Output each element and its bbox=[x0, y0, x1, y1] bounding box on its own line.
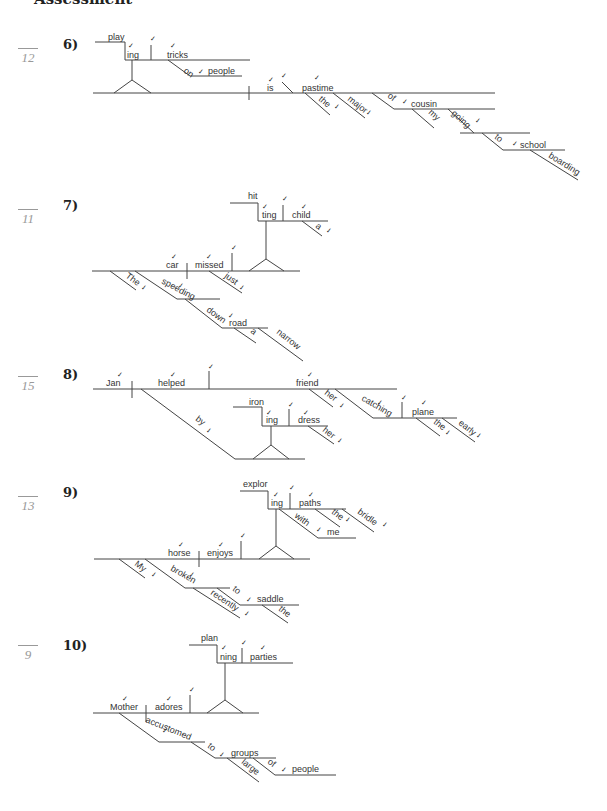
svg-text:✓: ✓ bbox=[171, 253, 177, 260]
svg-text:✓: ✓ bbox=[339, 402, 345, 409]
word-parties: parties bbox=[250, 652, 278, 662]
word-with: with bbox=[292, 510, 312, 528]
word-The: The bbox=[124, 271, 142, 288]
word-people: people bbox=[208, 66, 235, 76]
svg-text:✓: ✓ bbox=[178, 541, 184, 548]
diagram-7: hit ting child a car missed just The spe… bbox=[92, 191, 332, 361]
svg-text:✓: ✓ bbox=[401, 394, 407, 401]
word-school: school bbox=[520, 140, 546, 150]
svg-text:✓: ✓ bbox=[337, 437, 343, 444]
svg-text:✓: ✓ bbox=[476, 432, 482, 439]
svg-text:✓: ✓ bbox=[122, 695, 128, 702]
svg-text:✓: ✓ bbox=[128, 42, 134, 49]
svg-text:✓: ✓ bbox=[117, 371, 123, 378]
word-to: to bbox=[206, 741, 218, 754]
word-play: play bbox=[108, 32, 125, 42]
diagram-9: explor ing paths the bridle with me hors… bbox=[94, 479, 388, 623]
word-missed: missed bbox=[195, 260, 224, 270]
word-car: car bbox=[166, 260, 179, 270]
svg-text:✓: ✓ bbox=[281, 766, 287, 773]
word-large: large bbox=[240, 757, 262, 777]
word-to: to bbox=[493, 132, 505, 145]
word-her-2: her bbox=[321, 425, 337, 441]
word-saddle: saddle bbox=[257, 594, 284, 604]
word-My: My bbox=[133, 559, 149, 574]
word-adores: adores bbox=[155, 702, 183, 712]
word-is: is bbox=[267, 83, 274, 93]
word-plan: plan bbox=[201, 633, 218, 643]
word-ting: ting bbox=[262, 210, 277, 220]
word-enjoys: enjoys bbox=[207, 548, 234, 558]
svg-text:✓: ✓ bbox=[162, 727, 168, 734]
word-narrow: narrow bbox=[275, 327, 303, 352]
diagram-8: Jan helped friend her catching plane the… bbox=[93, 363, 482, 459]
svg-text:✓: ✓ bbox=[221, 644, 227, 651]
svg-text:✓: ✓ bbox=[178, 282, 184, 289]
svg-text:✓: ✓ bbox=[219, 751, 225, 758]
svg-text:✓: ✓ bbox=[189, 571, 195, 578]
check-icons: ✓ ✓ ✓ ✓ ✓ ✓ ✓ ✓ ✓ ✓ ✓ ✓ ✓ ✓ ✓ bbox=[117, 363, 482, 444]
word-pastime: pastime bbox=[302, 83, 334, 93]
svg-text:✓: ✓ bbox=[303, 409, 309, 416]
word-ing: ing bbox=[271, 498, 283, 508]
word-plane: plane bbox=[412, 407, 434, 417]
word-the: the bbox=[317, 94, 333, 110]
word-of: of bbox=[386, 91, 398, 104]
svg-text:✓: ✓ bbox=[241, 639, 247, 646]
svg-text:✓: ✓ bbox=[246, 596, 252, 603]
word-explor: explor bbox=[243, 479, 268, 489]
word-accustomed: accustomed bbox=[144, 715, 193, 742]
word-just: just bbox=[222, 270, 240, 287]
word-by: by bbox=[194, 414, 208, 428]
svg-text:✓: ✓ bbox=[262, 203, 268, 210]
svg-text:✓: ✓ bbox=[208, 363, 214, 370]
svg-text:✓: ✓ bbox=[239, 284, 245, 291]
svg-text:✓: ✓ bbox=[402, 98, 408, 105]
word-tricks: tricks bbox=[167, 50, 188, 60]
svg-text:✓: ✓ bbox=[377, 399, 383, 406]
sentence-diagrams: play ing tricks on people is pastime the… bbox=[0, 0, 607, 811]
svg-text:✓: ✓ bbox=[218, 541, 224, 548]
svg-text:✓: ✓ bbox=[273, 491, 279, 498]
word-road: road bbox=[229, 318, 247, 328]
word-hit: hit bbox=[248, 191, 258, 201]
word-horse: horse bbox=[168, 548, 191, 558]
word-ing: ing bbox=[266, 415, 278, 425]
svg-text:✓: ✓ bbox=[282, 195, 288, 202]
svg-text:✓: ✓ bbox=[288, 401, 294, 408]
svg-text:✓: ✓ bbox=[281, 72, 287, 79]
svg-text:✓: ✓ bbox=[244, 610, 250, 617]
word-to: to bbox=[231, 584, 243, 597]
svg-text:✓: ✓ bbox=[198, 68, 204, 75]
svg-text:✓: ✓ bbox=[150, 35, 156, 42]
word-dress: dress bbox=[298, 415, 321, 425]
svg-text:✓: ✓ bbox=[231, 244, 237, 251]
svg-text:✓: ✓ bbox=[307, 371, 313, 378]
word-me: me bbox=[327, 527, 340, 537]
svg-text:✓: ✓ bbox=[170, 371, 176, 378]
svg-text:✓: ✓ bbox=[316, 526, 322, 533]
word-helped: helped bbox=[158, 378, 185, 388]
svg-text:✓: ✓ bbox=[366, 109, 372, 116]
svg-text:✓: ✓ bbox=[166, 695, 172, 702]
svg-text:✓: ✓ bbox=[228, 312, 234, 319]
svg-text:✓: ✓ bbox=[475, 117, 481, 124]
word-Jan: Jan bbox=[106, 378, 121, 388]
word-on: on bbox=[182, 66, 196, 80]
svg-text:✓: ✓ bbox=[141, 284, 147, 291]
svg-text:✓: ✓ bbox=[345, 516, 351, 523]
svg-text:✓: ✓ bbox=[308, 491, 314, 498]
svg-text:✓: ✓ bbox=[170, 42, 176, 49]
svg-text:✓: ✓ bbox=[151, 571, 157, 578]
svg-text:✓: ✓ bbox=[260, 644, 266, 651]
word-ing: ing bbox=[127, 50, 139, 60]
word-ning: ning bbox=[220, 652, 237, 662]
svg-text:✓: ✓ bbox=[289, 484, 295, 491]
svg-text:✓: ✓ bbox=[334, 103, 340, 110]
svg-text:✓: ✓ bbox=[512, 140, 518, 147]
word-down: down bbox=[205, 305, 228, 326]
word-bridle: bridle bbox=[356, 507, 380, 528]
word-child: child bbox=[292, 210, 311, 220]
diagram-10: plan ning parties Mother adores accustom… bbox=[93, 633, 336, 782]
svg-text:✓: ✓ bbox=[301, 203, 307, 210]
